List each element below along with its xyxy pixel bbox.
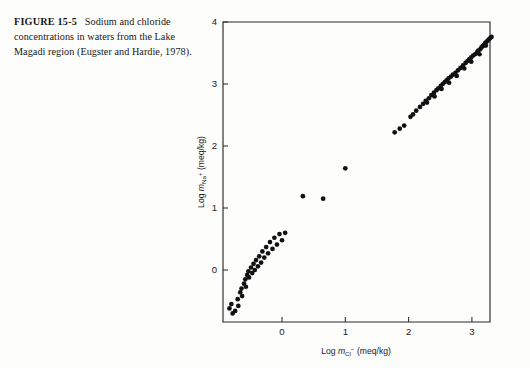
data-point [425, 100, 430, 105]
x-tick-label: 3 [469, 326, 474, 337]
tick-labels: 012301234 [212, 16, 475, 337]
data-point [240, 294, 245, 299]
x-axis-title: Log mCl− (meq/kg) [321, 346, 391, 357]
x-tick-label: 2 [406, 326, 411, 337]
y-tick-label: 2 [212, 140, 217, 151]
data-point [283, 230, 288, 235]
data-point [262, 255, 267, 260]
data-point [233, 309, 238, 314]
data-point [272, 235, 277, 240]
y-tick-label: 1 [212, 202, 217, 213]
data-point [414, 108, 419, 113]
data-point [321, 196, 326, 201]
data-point [266, 251, 271, 256]
data-point [252, 268, 257, 273]
data-point [454, 74, 459, 79]
data-point [254, 258, 259, 263]
data-point [447, 80, 452, 85]
data-point [264, 245, 269, 250]
data-point [227, 306, 232, 311]
data-points-layer [227, 35, 494, 316]
data-point [432, 94, 437, 99]
data-point [268, 240, 273, 245]
data-point [301, 194, 306, 199]
y-axis-title: Log mNa+ (meq/kg) [196, 136, 207, 208]
tick-marks [223, 22, 472, 322]
data-point [247, 275, 252, 280]
plot-svg: 012301234 Log mCl− (meq/kg) Log mNa+ (me… [0, 0, 530, 368]
scatter-plot: 012301234 Log mCl− (meq/kg) Log mNa+ (me… [0, 0, 530, 368]
data-point [402, 123, 407, 128]
data-point [239, 286, 244, 291]
data-point [489, 35, 494, 40]
data-point [483, 43, 488, 48]
axis-frame [223, 22, 490, 322]
data-point [236, 304, 241, 309]
data-point [462, 66, 467, 71]
data-point [277, 232, 282, 237]
data-point [343, 166, 348, 171]
y-tick-label: 4 [212, 16, 218, 27]
data-point [229, 302, 234, 307]
x-tick-label: 0 [279, 326, 284, 337]
data-point [257, 254, 262, 259]
data-point [411, 112, 416, 117]
data-point [260, 249, 265, 254]
figure-container: FIGURE 15-5 Sodium and chloride concentr… [0, 0, 530, 368]
data-point [235, 297, 240, 302]
data-point [392, 130, 397, 135]
data-point [270, 247, 275, 252]
data-point [439, 87, 444, 92]
data-point [469, 59, 474, 64]
y-tick-label: 3 [212, 78, 217, 89]
data-point [256, 264, 261, 269]
y-tick-label: 0 [212, 264, 217, 275]
data-point [275, 242, 280, 247]
data-point [397, 126, 402, 131]
data-point [259, 260, 264, 265]
data-point [477, 52, 482, 57]
data-point [280, 238, 285, 243]
data-point [244, 284, 249, 289]
x-tick-label: 1 [343, 326, 348, 337]
